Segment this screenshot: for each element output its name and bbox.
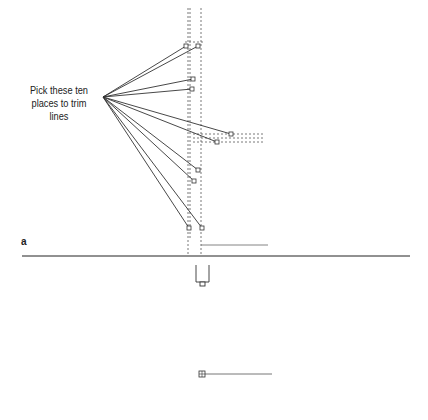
leader-line <box>103 79 193 97</box>
u-shape-result <box>196 265 209 286</box>
leader-line <box>103 97 189 228</box>
leader-line <box>103 97 198 170</box>
leader-line <box>103 46 186 97</box>
trim-marker[interactable] <box>184 44 188 48</box>
trim-marker[interactable] <box>215 140 219 144</box>
trim-marker[interactable] <box>196 168 200 172</box>
leader-lines <box>103 46 231 228</box>
callout-label: Pick these ten places to trim lines <box>22 84 96 123</box>
trim-marker[interactable] <box>192 179 196 183</box>
leader-line <box>103 97 231 134</box>
trimmed-line-result <box>199 371 272 377</box>
trim-marker[interactable] <box>187 226 191 230</box>
u-shape-marker <box>200 282 205 286</box>
callout-line-2: places to trim lines <box>22 97 96 123</box>
trim-marker[interactable] <box>229 132 233 136</box>
horizontal-guides <box>193 134 263 142</box>
leader-line <box>103 97 194 181</box>
trim-marker[interactable] <box>191 77 195 81</box>
trim-marker[interactable] <box>190 87 194 91</box>
callout-line-1: Pick these ten <box>22 84 96 97</box>
trim-marker[interactable] <box>200 226 204 230</box>
trim-marker[interactable] <box>196 44 200 48</box>
u-shape <box>196 265 209 282</box>
figure-label: a <box>21 236 27 247</box>
trim-markers <box>184 44 233 230</box>
trim-diagram <box>0 0 428 420</box>
